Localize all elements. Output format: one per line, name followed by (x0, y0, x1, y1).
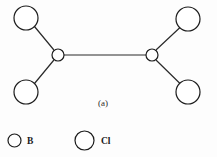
legend: B Cl (8, 131, 111, 150)
atom-b-right (146, 49, 158, 61)
bond-cl-bottom-left-b-left (35, 61, 54, 84)
atom-b-left (52, 49, 64, 61)
atom-cl-top-right (176, 7, 200, 31)
legend-b-label: B (27, 136, 34, 146)
bond-b-right-cl-top-right (157, 28, 181, 50)
figure-caption: (a) (98, 98, 108, 108)
bond-cl-top-left-b-left (35, 27, 54, 50)
legend-b-icon (8, 134, 21, 147)
atom-cl-bottom-left (14, 80, 38, 104)
legend-item-cl: Cl (75, 131, 111, 150)
bond-b-right-cl-bottom-right (157, 61, 181, 84)
legend-item-b: B (8, 134, 34, 147)
legend-cl-icon (75, 131, 94, 150)
atom-cl-top-left (14, 6, 38, 30)
atom-cl-bottom-right (176, 80, 200, 104)
molecular-structure-diagram: (a) B Cl (0, 0, 217, 157)
figure-container: (a) B Cl (0, 0, 217, 157)
legend-cl-label: Cl (101, 136, 111, 146)
